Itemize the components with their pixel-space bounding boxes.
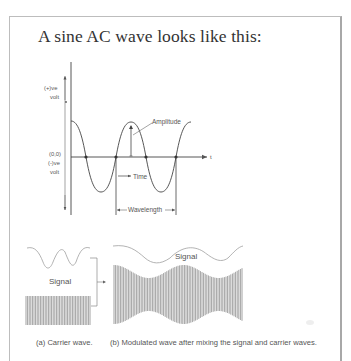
positive-volt-label-line2: volt [50,94,59,100]
signal-label-right: Signal [175,252,197,261]
x-axis-label: t [210,154,212,160]
signal-wave-curve-left [27,248,90,268]
negative-volt-label-line2: volt [50,169,59,175]
modulated-wave [114,265,242,324]
voltage-range-indicator [65,76,67,210]
origin-label: (0,0) [49,151,61,157]
carrier-wave-block [26,296,90,325]
amplitude-label: Amplitude [152,118,181,126]
amplitude-indicator [129,123,152,156]
caption-modulated-wave: (b) Modulated wave after mixing the sign… [110,338,317,347]
positive-volt-label-line1: (+)ve [44,85,57,91]
negative-volt-label-line1: (-)ve [48,160,60,166]
signal-label-left: Signal [49,277,71,286]
wavelength-label: Wavelength [128,206,162,214]
caption-carrier-wave: (a) Carrier wave. [36,338,93,347]
mixing-connector [90,258,106,306]
scan-artifact [306,320,314,325]
time-label: Time [133,173,148,180]
